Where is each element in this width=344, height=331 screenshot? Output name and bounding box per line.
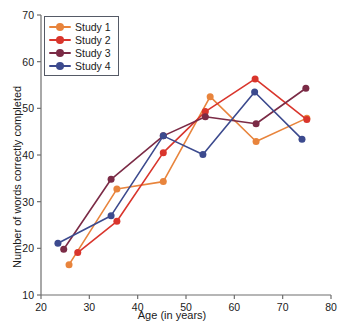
data-point[interactable] — [202, 113, 209, 120]
series-study-2 — [74, 75, 310, 256]
series-study-1 — [66, 93, 311, 268]
legend-item-label: Study 4 — [71, 60, 111, 72]
legend-marker-icon — [49, 46, 71, 59]
y-axis-title: Number of words correctly completed — [11, 86, 23, 268]
data-point[interactable] — [74, 249, 81, 256]
legend-marker-icon — [49, 33, 71, 46]
y-tick-label: 70 — [8, 9, 34, 21]
chart-figure: 10203040506070 20304050607080 Age (in ye… — [0, 0, 344, 331]
x-axis-title: Age (in years) — [0, 309, 344, 321]
series-line — [78, 79, 307, 253]
series-line — [69, 97, 307, 265]
data-point[interactable] — [251, 89, 258, 96]
data-point[interactable] — [199, 151, 206, 158]
chart-legend: Study 1Study 2Study 3Study 4 — [44, 16, 119, 76]
data-point[interactable] — [66, 261, 73, 268]
legend-marker-icon — [49, 20, 71, 33]
data-point[interactable] — [253, 138, 260, 145]
series-line — [58, 92, 302, 243]
data-point[interactable] — [252, 75, 259, 82]
data-point[interactable] — [302, 85, 309, 92]
data-point[interactable] — [207, 93, 214, 100]
data-point[interactable] — [60, 246, 67, 253]
legend-marker-icon — [49, 59, 71, 72]
series-study-4 — [54, 89, 305, 247]
data-point[interactable] — [108, 176, 115, 183]
data-point[interactable] — [160, 178, 167, 185]
legend-item-label: Study 3 — [71, 47, 111, 59]
series-layer — [54, 75, 310, 268]
legend-item[interactable]: Study 4 — [49, 59, 111, 72]
series-line — [64, 88, 306, 249]
data-point[interactable] — [54, 240, 61, 247]
data-point[interactable] — [299, 136, 306, 143]
legend-item-label: Study 1 — [71, 21, 111, 33]
legend-item[interactable]: Study 1 — [49, 20, 111, 33]
y-tick-label: 60 — [8, 56, 34, 68]
data-point[interactable] — [303, 116, 310, 123]
data-point[interactable] — [160, 149, 167, 156]
data-point[interactable] — [113, 186, 120, 193]
legend-item[interactable]: Study 2 — [49, 33, 111, 46]
data-point[interactable] — [160, 132, 167, 139]
data-point[interactable] — [253, 120, 260, 127]
legend-item-label: Study 2 — [71, 34, 111, 46]
data-point[interactable] — [108, 212, 115, 219]
data-point[interactable] — [113, 218, 120, 225]
y-tick-label: 10 — [8, 289, 34, 301]
legend-item[interactable]: Study 3 — [49, 46, 111, 59]
